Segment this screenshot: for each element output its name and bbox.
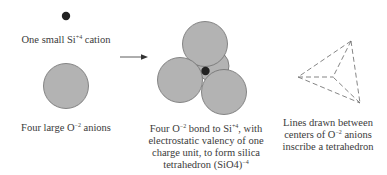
edge-top-bottom (351, 41, 360, 103)
si-cation (62, 12, 70, 20)
tetrahedron-outline (298, 41, 360, 103)
charge-superscript: −4 (242, 159, 248, 165)
text: anions (342, 129, 372, 140)
text: Four O (150, 123, 180, 134)
text: bond to Si (186, 123, 232, 134)
text: electrostatic valency of one (148, 135, 263, 146)
anions-label: Four large O−2 anions (10, 122, 122, 134)
o-anion (44, 64, 89, 109)
anions-label-text: Four large O (21, 122, 74, 133)
bond-label-line: charge unit, to form silica (135, 147, 277, 159)
edge-left-bottom (298, 77, 360, 103)
lines-label: Lines drawn between centers of O−2 anion… (262, 117, 387, 153)
silica-tetrahedron-cluster (158, 22, 247, 115)
bond-label-line: tetrahedron (SiO4)−4 (135, 159, 277, 171)
text: Lines drawn between (283, 117, 373, 128)
o-anion-right (202, 70, 247, 115)
lines-label-line: Lines drawn between (262, 117, 387, 129)
text: charge unit, to form silica (152, 147, 260, 158)
text: inscribe a tetrahedron (283, 141, 374, 152)
bond-label-line: Four O−2 bond to Si+4, with (135, 123, 277, 135)
edge-bottom-center (333, 77, 360, 103)
o-anion-left (158, 58, 203, 103)
lines-label-line: centers of O−2 anions (262, 129, 387, 141)
si-cation-center (201, 67, 209, 75)
text: , with (238, 123, 262, 134)
right-arrow-icon (120, 54, 148, 59)
lines-label-line: inscribe a tetrahedron (262, 141, 387, 153)
bond-label-line: electrostatic valency of one (135, 135, 277, 147)
cation-label: One small Si+4 cation (10, 34, 122, 46)
bond-label: Four O−2 bond to Si+4, with electrostati… (135, 123, 277, 171)
cation-label-text-end: cation (82, 34, 110, 45)
edge-top-left (298, 41, 351, 77)
anions-label-text-end: anions (81, 122, 111, 133)
edge-top-center (333, 41, 351, 77)
text: tetrahedron (SiO4) (163, 159, 242, 170)
cation-label-text: One small Si (22, 34, 76, 45)
text: centers of O (284, 129, 335, 140)
